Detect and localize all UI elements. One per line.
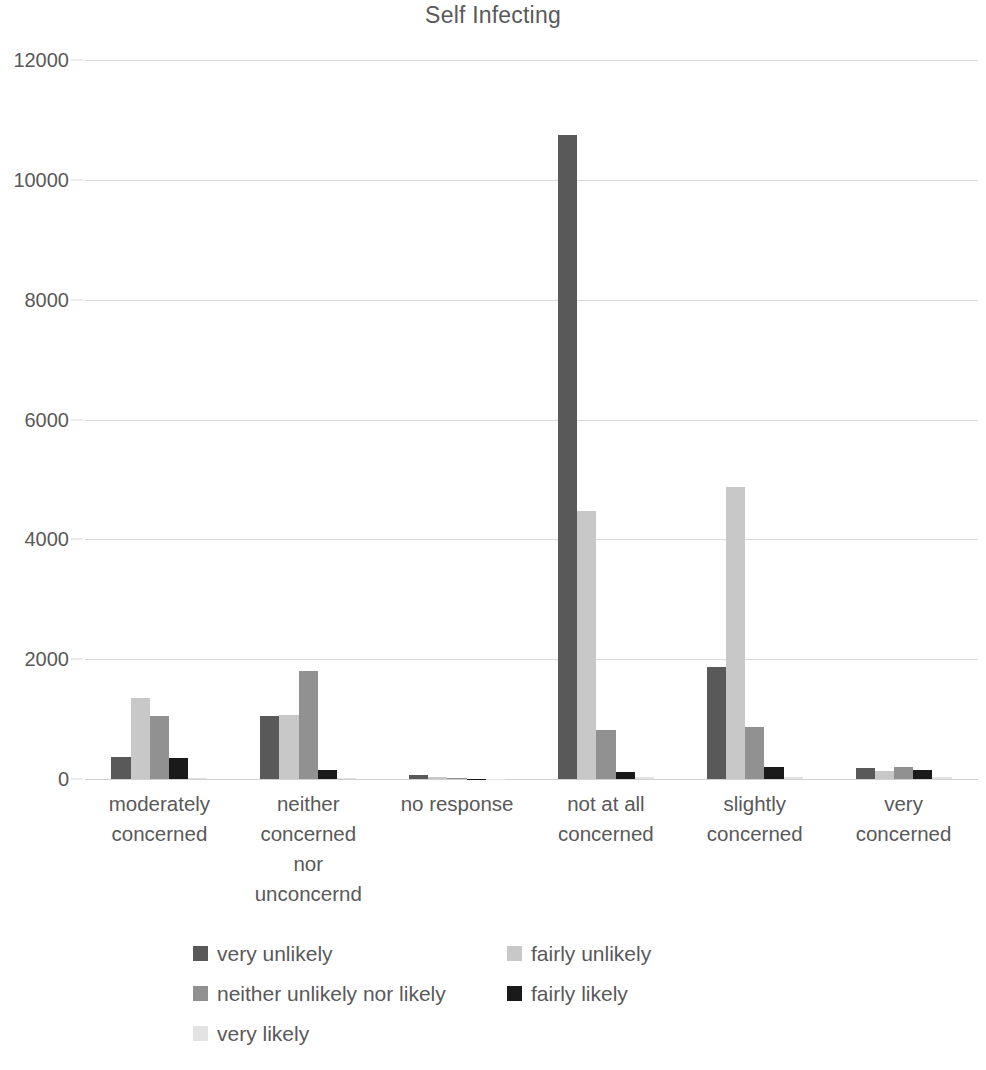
bar-groups (85, 60, 978, 779)
x-axis-category-label-line: not at all (535, 789, 676, 819)
x-axis-category-label-line: concerned (89, 819, 230, 849)
legend-swatch-icon (507, 986, 522, 1001)
legend-item[interactable]: very unlikely (193, 943, 507, 964)
bar[interactable] (337, 778, 356, 779)
chart-legend: very unlikelyfairly unlikelyneither unli… (193, 943, 793, 1063)
legend-row: very likely (193, 1023, 793, 1055)
legend-label: fairly unlikely (531, 943, 651, 964)
y-axis-tick-label: 6000 (25, 408, 70, 431)
bar[interactable] (635, 777, 654, 779)
legend-swatch-icon (193, 946, 208, 961)
bar-slots (111, 60, 207, 779)
x-axis-category-label-line: concerned (684, 819, 825, 849)
legend-row: neither unlikely nor likelyfairly likely (193, 983, 793, 1015)
bar[interactable] (150, 716, 169, 779)
bar-group (85, 60, 234, 779)
x-axis-category-label-line: neither (238, 789, 379, 819)
chart-container: Self Infecting 0200040006000800010000120… (0, 0, 986, 1070)
bar[interactable] (913, 770, 932, 779)
bar[interactable] (577, 511, 596, 779)
bar[interactable] (447, 778, 466, 779)
bar[interactable] (279, 715, 298, 779)
bar[interactable] (932, 777, 951, 779)
legend-item[interactable]: fairly unlikely (507, 943, 651, 964)
bar-slots (260, 60, 356, 779)
x-axis-category-label: veryconcerned (829, 789, 978, 909)
x-axis-category-label-line: concerned (833, 819, 974, 849)
y-axis-tick-mark (71, 299, 83, 300)
bar[interactable] (188, 778, 207, 779)
bar[interactable] (111, 757, 130, 779)
x-axis-category-label-line: no response (387, 789, 528, 819)
bar[interactable] (596, 730, 615, 779)
bar-slots (409, 60, 505, 779)
legend-item[interactable]: very likely (193, 1023, 507, 1044)
y-axis-tick-mark (71, 779, 83, 780)
bar[interactable] (409, 775, 428, 779)
y-axis-tick-label: 8000 (25, 288, 70, 311)
x-axis-category-label-line: concerned (238, 819, 379, 849)
bar[interactable] (707, 667, 726, 779)
x-axis-category-label: no response (383, 789, 532, 909)
bar[interactable] (260, 716, 279, 779)
x-axis-category-label-line: nor (238, 849, 379, 879)
bar[interactable] (558, 135, 577, 779)
x-axis-category-label-line: concerned (535, 819, 676, 849)
y-axis-tick-mark (71, 659, 83, 660)
bar-slots (558, 60, 654, 779)
bar[interactable] (764, 767, 783, 779)
x-axis-category-label-line: slightly (684, 789, 825, 819)
x-axis-category-label: neitherconcernednorunconcernd (234, 789, 383, 909)
y-axis-tick-mark (71, 419, 83, 420)
chart-title: Self Infecting (0, 2, 986, 29)
x-axis-category-label: slightlyconcerned (680, 789, 829, 909)
legend-swatch-icon (193, 1026, 208, 1041)
bar-group (234, 60, 383, 779)
legend-label: very likely (217, 1023, 309, 1044)
bar-group (531, 60, 680, 779)
bar[interactable] (169, 758, 188, 779)
x-axis-category-label: moderatelyconcerned (85, 789, 234, 909)
legend-item[interactable]: fairly likely (507, 983, 628, 1004)
x-axis-category-label: not at allconcerned (531, 789, 680, 909)
legend-row: very unlikelyfairly unlikely (193, 943, 793, 975)
bar[interactable] (875, 771, 894, 779)
bar[interactable] (616, 772, 635, 779)
bar[interactable] (894, 767, 913, 779)
legend-label: neither unlikely nor likely (217, 983, 446, 1004)
y-axis-tick-mark (71, 179, 83, 180)
plot-area: 020004000600080001000012000 (85, 60, 978, 779)
gridline (85, 779, 978, 780)
bar-group (383, 60, 532, 779)
bar[interactable] (131, 698, 150, 779)
y-axis-tick-label: 0 (58, 768, 69, 791)
legend-item[interactable]: neither unlikely nor likely (193, 983, 507, 1004)
x-axis-category-label-line: unconcernd (238, 879, 379, 909)
bar[interactable] (428, 777, 447, 779)
y-axis-tick-label: 4000 (25, 528, 70, 551)
x-axis-category-labels: moderatelyconcernedneitherconcernednorun… (85, 789, 978, 909)
bar-slots (707, 60, 803, 779)
bar-group (680, 60, 829, 779)
y-axis-tick-mark (71, 60, 83, 61)
bar[interactable] (784, 777, 803, 779)
bar-group (829, 60, 978, 779)
y-axis-tick-label: 12000 (13, 49, 69, 72)
x-axis-category-label-line: moderately (89, 789, 230, 819)
y-axis-tick-mark (71, 539, 83, 540)
legend-label: fairly likely (531, 983, 628, 1004)
bar[interactable] (726, 487, 745, 779)
x-axis-category-label-line: very (833, 789, 974, 819)
bar[interactable] (745, 727, 764, 779)
bar[interactable] (299, 671, 318, 779)
y-axis-tick-label: 10000 (13, 168, 69, 191)
legend-swatch-icon (507, 946, 522, 961)
bar-slots (856, 60, 952, 779)
y-axis-tick-label: 2000 (25, 648, 70, 671)
bar[interactable] (856, 768, 875, 779)
legend-label: very unlikely (217, 943, 333, 964)
bar[interactable] (318, 770, 337, 779)
legend-swatch-icon (193, 986, 208, 1001)
